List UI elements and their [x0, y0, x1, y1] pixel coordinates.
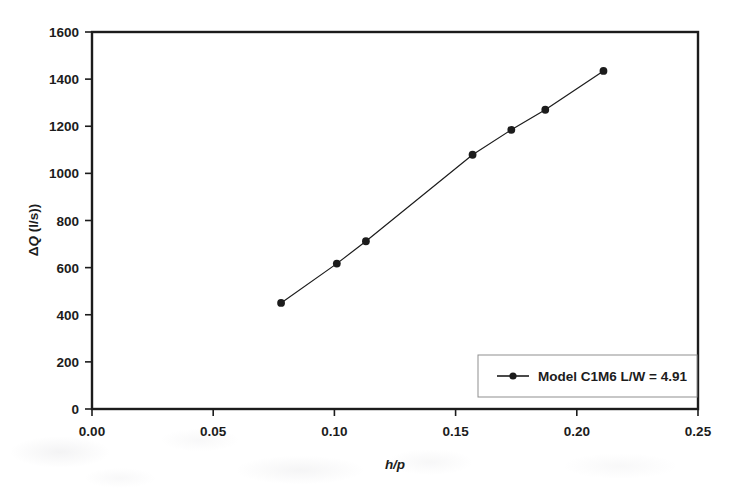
y-tick-label: 600: [56, 261, 79, 276]
data-point-marker: [507, 126, 515, 134]
x-tick-label: 0.00: [79, 424, 105, 439]
y-axis-title-units: (l/s)): [26, 204, 41, 236]
legend[interactable]: Model C1M6 L/W = 4.91: [478, 355, 697, 397]
line-chart-canvas: 02004006008001000120014001600 0.000.050.…: [0, 0, 741, 488]
svg-text:ΔQ (l/s)): ΔQ (l/s)): [26, 204, 41, 256]
y-tick-label: 0: [71, 402, 79, 417]
chart-figure: 02004006008001000120014001600 0.000.050.…: [0, 0, 741, 488]
data-point-marker: [333, 260, 341, 268]
y-tick-label: 200: [56, 355, 79, 370]
plot-frame: [92, 32, 698, 409]
y-tick-label: 800: [56, 214, 79, 229]
x-tick-label: 0.10: [321, 424, 347, 439]
legend-marker-icon: [509, 372, 516, 379]
x-axis-tick-labels: 0.000.050.100.150.200.25: [79, 424, 712, 439]
x-tick-label: 0.25: [685, 424, 712, 439]
y-tick-label: 1000: [49, 166, 79, 181]
y-tick-label: 1200: [49, 119, 79, 134]
x-axis-title: h/p: [385, 457, 405, 472]
legend-entry-label: Model C1M6 L/W = 4.91: [538, 369, 687, 384]
y-tick-label: 1600: [49, 25, 79, 40]
data-point-marker: [362, 237, 370, 245]
series-line: [281, 71, 603, 303]
y-tick-label: 400: [56, 308, 79, 323]
y-axis-title-delta: Δ: [26, 246, 41, 256]
y-axis-title-quantity: Q: [26, 236, 41, 247]
x-tick-label: 0.20: [564, 424, 590, 439]
y-axis-title: ΔQ (l/s)): [26, 204, 41, 256]
y-axis-tick-labels: 02004006008001000120014001600: [49, 25, 79, 417]
data-point-marker: [541, 106, 549, 114]
data-series-lines: [281, 71, 603, 303]
x-tick-label: 0.15: [442, 424, 469, 439]
data-point-marker: [277, 299, 285, 307]
x-tick-label: 0.05: [200, 424, 227, 439]
data-point-marker: [469, 151, 477, 159]
data-point-marker: [600, 67, 608, 75]
y-tick-label: 1400: [49, 72, 79, 87]
